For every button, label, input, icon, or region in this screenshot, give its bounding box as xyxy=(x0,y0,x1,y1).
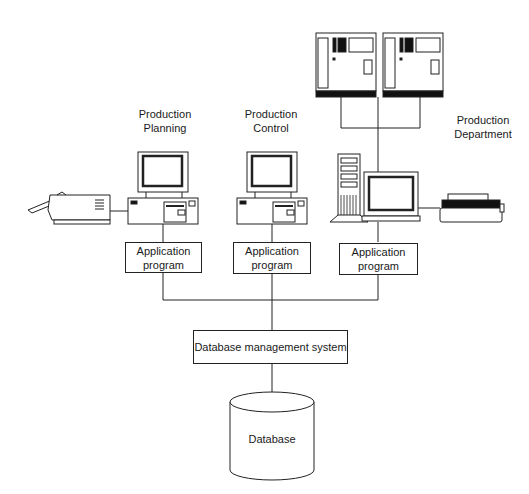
database-label: Database xyxy=(230,432,314,446)
dbms-box: Database management system xyxy=(193,330,348,364)
app-program-box-planning: Application program xyxy=(125,242,202,273)
dot-matrix-printer-icon xyxy=(440,194,504,222)
mainframe-icon xyxy=(316,33,376,97)
desktop-computer-icon xyxy=(128,152,198,224)
fax-machine-icon xyxy=(28,192,110,224)
app-program-box-department: Application program xyxy=(339,243,418,275)
desktop-computer-icon xyxy=(237,152,307,224)
label-production-planning: Production Planning xyxy=(130,107,200,135)
tower-workstation-icon xyxy=(330,154,420,222)
app-program-box-control: Application program xyxy=(233,242,311,274)
label-production-control: Production Control xyxy=(236,107,306,135)
mainframe-icon xyxy=(383,33,443,97)
label-production-department: Production Department xyxy=(443,113,523,141)
